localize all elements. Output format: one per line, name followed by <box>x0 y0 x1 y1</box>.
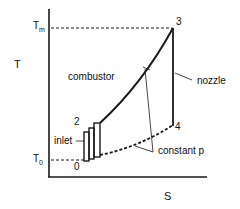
nozzle-label: nozzle <box>197 76 226 86</box>
nozzle-leader <box>175 73 192 80</box>
t-max-sub: m <box>39 26 45 33</box>
point-0-label: 0 <box>74 162 80 172</box>
inlet-label: inlet <box>54 136 72 146</box>
t-zero-sub: 0 <box>39 159 43 166</box>
t-max-label: Tm <box>33 21 45 33</box>
constant-p-label: constant p <box>158 146 204 156</box>
y-axis-label: T <box>14 59 21 70</box>
point-4-label: 4 <box>175 122 181 132</box>
combustor-leader-long <box>145 69 153 152</box>
point-2-label: 2 <box>74 117 80 127</box>
combustor-label: combustor <box>68 72 115 82</box>
constant-p-leader <box>135 146 153 152</box>
point-3-label: 3 <box>176 17 182 27</box>
x-axis-label: S <box>164 191 171 202</box>
t-zero-label: T0 <box>33 154 43 166</box>
inlet-compression-steps <box>84 123 100 161</box>
